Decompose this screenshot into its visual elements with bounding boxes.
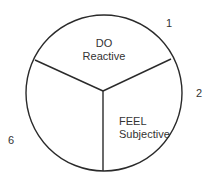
number-6: 6 [8,134,14,147]
segment-top-subtitle: Reactive [80,50,128,63]
number-2: 2 [196,87,202,100]
number-1: 1 [166,17,172,30]
spoke-left [35,60,103,91]
circle-diagram [0,0,214,186]
segment-bottom-right-title: FEEL [119,115,170,128]
segment-bottom-right-subtitle: Subjective [119,128,170,141]
spoke-right [103,59,171,91]
segment-bottom-right-label: FEEL Subjective [119,115,170,141]
segment-top-title: DO [80,37,128,50]
segment-top-label: DO Reactive [80,37,128,63]
